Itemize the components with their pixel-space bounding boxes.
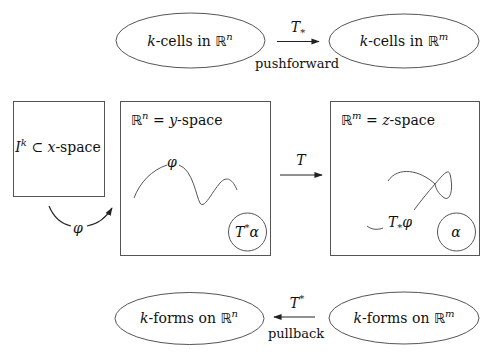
kforms-rm-label: k-forms on ℝm (354, 311, 455, 325)
param-box-label: Ik ⊂ x-space (15, 140, 101, 154)
pushed-curve-tail (367, 226, 383, 229)
kcells-rn-label: k-cells in ℝn (147, 34, 232, 48)
pushforward-caption: pushforward (255, 57, 339, 70)
pushed-curve (388, 171, 452, 210)
pushed-curve-label: T*φ (388, 215, 412, 229)
map-symbol: T (296, 153, 305, 167)
pullback-caption: pullback (268, 327, 324, 340)
pushforward-symbol: T* (291, 20, 305, 34)
domain-box-title: ℝn = y-space (131, 113, 222, 127)
phi-curve-left (134, 165, 167, 198)
param-arrow-left (49, 206, 71, 226)
diagram-canvas: k-cells in ℝn k-cells in ℝm T* pushforwa… (0, 0, 495, 357)
phi-curve-label: φ (167, 155, 177, 169)
target-box-title: ℝm = z-space (341, 113, 435, 127)
diagram-shapes (0, 0, 495, 357)
param-arrow-right (87, 208, 112, 226)
kcells-rm-label: k-cells in ℝm (360, 34, 448, 48)
phi-curve-right (179, 165, 237, 205)
pullback-form-label: T*α (235, 225, 259, 239)
pullback-symbol: T* (290, 296, 304, 310)
param-map-symbol: φ (73, 221, 83, 235)
form-label: α (451, 225, 460, 239)
kforms-rn-label: k-forms on ℝn (140, 311, 238, 325)
